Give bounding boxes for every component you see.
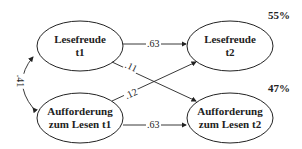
- label-lesefreude-t2: Lesefreude t2: [190, 33, 270, 59]
- node-subtitle: t1: [40, 46, 120, 59]
- node-title: Aufforderung: [186, 105, 274, 118]
- coef-lf1-lf2: .63: [146, 39, 161, 49]
- node-title: Lesefreude: [40, 33, 120, 46]
- label-aufforderung-t1: Aufforderung zum Lesen t1: [36, 105, 124, 131]
- node-subtitle: zum Lesen t1: [36, 118, 124, 131]
- label-aufforderung-t2: Aufforderung zum Lesen t2: [186, 105, 274, 131]
- node-title: Lesefreude: [190, 33, 270, 46]
- node-subtitle: t2: [190, 46, 270, 59]
- coef-correlation-t1: .41: [15, 74, 25, 89]
- coef-af1-af2: .63: [146, 120, 161, 130]
- r-squared-lesefreude-t2: 55%: [268, 9, 290, 21]
- r-squared-aufforderung-t2: 47%: [268, 82, 290, 94]
- node-subtitle: zum Lesen t2: [186, 118, 274, 131]
- label-lesefreude-t1: Lesefreude t1: [40, 33, 120, 59]
- node-title: Aufforderung: [36, 105, 124, 118]
